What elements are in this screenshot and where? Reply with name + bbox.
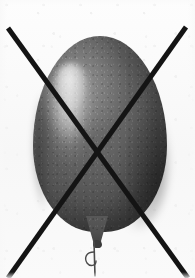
image-canvas (0, 0, 195, 278)
cross-out-x-icon (0, 0, 195, 278)
